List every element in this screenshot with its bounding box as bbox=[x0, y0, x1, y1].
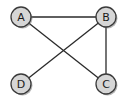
node-label: D bbox=[17, 78, 25, 91]
node-label: A bbox=[17, 11, 25, 24]
node-c: C bbox=[96, 74, 118, 96]
node-a: A bbox=[11, 7, 33, 29]
node-label: C bbox=[102, 78, 110, 91]
node-b: B bbox=[96, 7, 118, 29]
node-label: B bbox=[102, 11, 110, 24]
edges bbox=[21, 17, 106, 84]
graph-diagram: ABCD bbox=[0, 0, 128, 101]
